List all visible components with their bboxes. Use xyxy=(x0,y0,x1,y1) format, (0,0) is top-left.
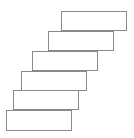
stair-block-3 xyxy=(32,51,98,71)
stair-block-6 xyxy=(6,110,72,131)
staircase-diagram xyxy=(0,0,134,138)
stair-block-4 xyxy=(21,71,87,91)
stair-block-5 xyxy=(13,90,79,110)
stair-block-1 xyxy=(61,11,127,31)
stair-block-2 xyxy=(48,31,114,51)
